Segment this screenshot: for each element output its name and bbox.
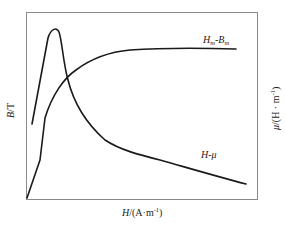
h-mu-curve (32, 29, 246, 184)
y-axis-right-label: μ/(H · m-1) (269, 87, 282, 131)
hm-bm-curve (27, 48, 236, 198)
x-axis-label: H/(A·m-1) (121, 206, 162, 219)
h-mu-label: H-μ (200, 149, 217, 160)
chart: Hm-Bm H-μ H/(A·m-1) B/T μ/(H · m-1) (0, 0, 285, 225)
hm-bm-label: Hm-Bm (202, 34, 229, 46)
y-axis-left-label: B/T (5, 103, 16, 118)
